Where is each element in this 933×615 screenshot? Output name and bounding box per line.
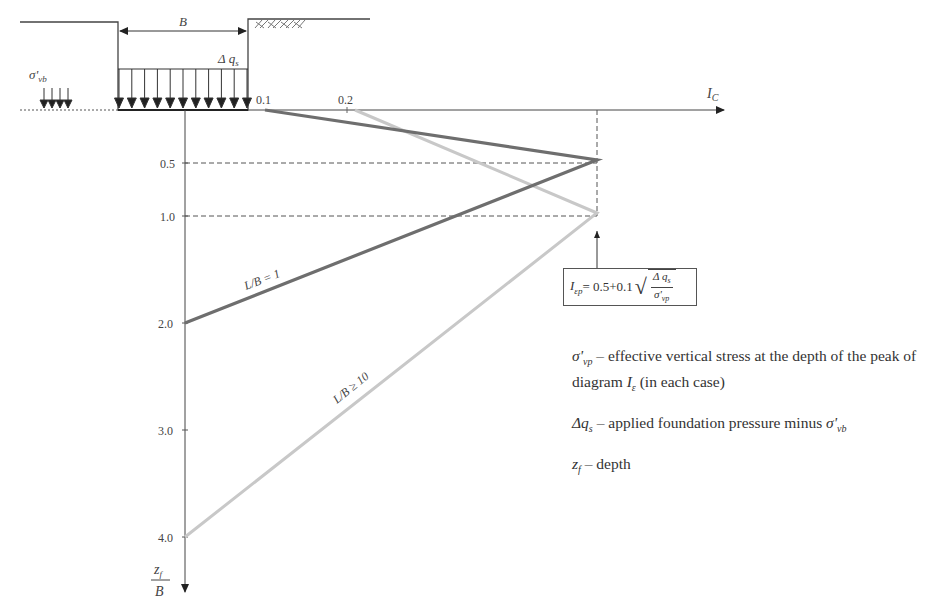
peak-formula-box: Iεp = 0.5+0.1 √ Δ qs σ'vp xyxy=(563,268,697,306)
legend-item-zf: zf – depth xyxy=(572,454,932,480)
formula-rhs: = 0.5+0.1 xyxy=(582,279,632,295)
y-axis-label: zf B xyxy=(151,562,170,599)
sqrt-icon: √ xyxy=(635,277,647,297)
svg-text:B: B xyxy=(155,584,164,599)
x-tick-0.2: 0.2 xyxy=(338,93,353,107)
soil-hatch-icon xyxy=(255,20,305,28)
overburden-label: σ'vb xyxy=(29,67,47,84)
svg-text:2.0: 2.0 xyxy=(158,317,173,331)
overburden-arrows xyxy=(40,88,72,108)
x-tick-0.1: 0.1 xyxy=(256,93,271,107)
svg-text:zf: zf xyxy=(153,562,163,579)
formula-lhs: Iεp xyxy=(570,278,582,296)
ground-surface xyxy=(20,19,370,110)
load-label: Δ qs xyxy=(217,51,239,68)
curve-lb-10 xyxy=(185,110,597,537)
strain-influence-diagram: B Δ qs σ'vb IC 0.1 0.2 0.5 1.0 2.0 3.0 4… xyxy=(0,0,933,615)
y-ticks: 0.5 1.0 2.0 3.0 4.0 xyxy=(158,157,175,545)
svg-text:1.0: 1.0 xyxy=(160,210,175,224)
svg-text:3.0: 3.0 xyxy=(158,424,173,438)
legend-item-delta-qs: Δqs – applied foundation pressure minus … xyxy=(572,413,932,439)
legend-item-sigma-vp: σ'vp – effective vertical stress at the … xyxy=(572,346,932,398)
foundation-load-arrows xyxy=(115,69,252,108)
svg-text:4.0: 4.0 xyxy=(158,531,173,545)
curve-label-lb-10: L/B ≥ 10 xyxy=(329,369,371,407)
formula-fraction: Δ qs σ'vp xyxy=(648,269,676,305)
svg-text:0.5: 0.5 xyxy=(160,157,175,171)
legend: σ'vp – effective vertical stress at the … xyxy=(572,346,932,495)
x-axis-label: IC xyxy=(706,86,719,103)
width-label: B xyxy=(179,14,187,29)
curve-label-lb-1: L/B = 1 xyxy=(241,266,282,293)
